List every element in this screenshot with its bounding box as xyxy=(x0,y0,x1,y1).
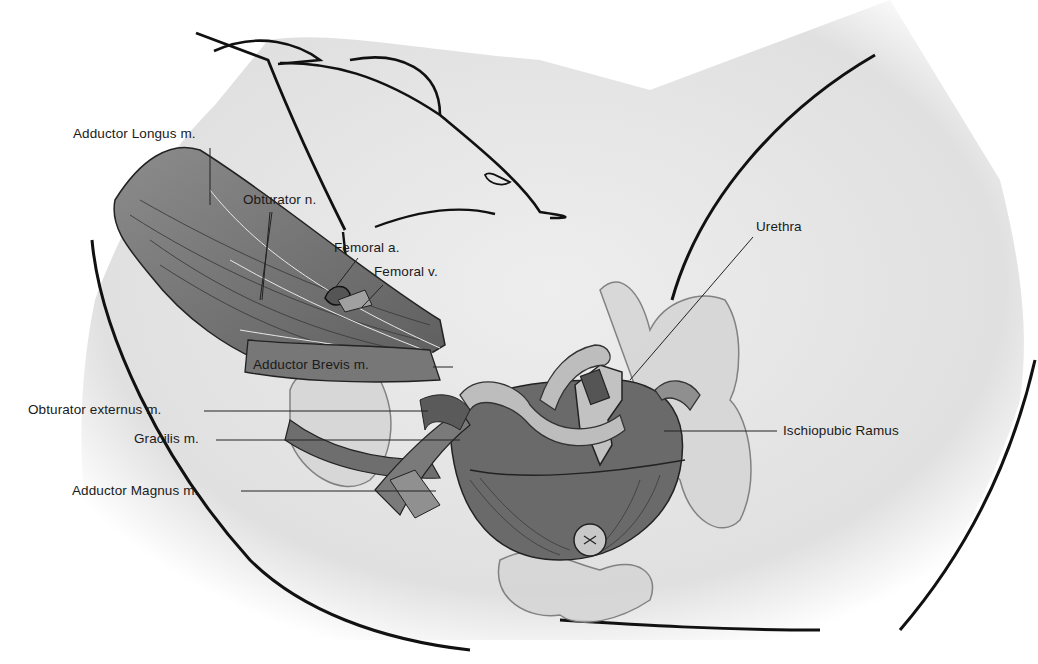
label-gracilis: Gracilis m. xyxy=(134,432,199,446)
label-adductor-longus: Adductor Longus m. xyxy=(73,127,196,141)
anatomical-figure: Adductor Longus m. Obturator n. Femoral … xyxy=(0,0,1038,664)
label-obturator-externus: Obturator externus m. xyxy=(28,403,161,417)
label-obturator-nerve: Obturator n. xyxy=(243,193,316,207)
label-adductor-magnus: Adductor Magnus m. xyxy=(72,484,198,498)
illustration xyxy=(0,0,1038,664)
label-femoral-artery: Femoral a. xyxy=(334,241,400,255)
label-adductor-brevis: Adductor Brevis m. xyxy=(253,358,369,372)
label-urethra: Urethra xyxy=(756,220,802,234)
label-femoral-vein: Femoral v. xyxy=(374,265,438,279)
label-ischiopubic-ramus: Ischiopubic Ramus xyxy=(783,424,899,438)
